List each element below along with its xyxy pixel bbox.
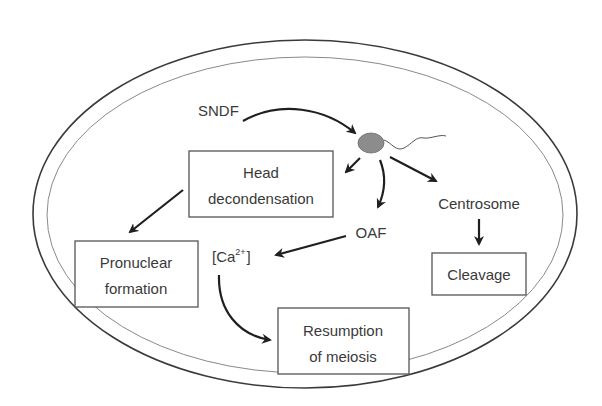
resumption-of-meiosis-box: Resumption of meiosis: [278, 308, 409, 374]
oaf-label: OAF: [356, 224, 387, 241]
resumption-line2: of meiosis: [309, 348, 377, 365]
head-decondensation-line1: Head: [243, 164, 279, 181]
head-decondensation-line2: decondensation: [208, 190, 314, 207]
fertilization-diagram: SNDF Head decondensation Pronuclear form…: [0, 0, 602, 406]
cleavage-box: Cleavage: [432, 253, 526, 295]
pronuclear-formation-box: Pronuclear formation: [75, 241, 198, 307]
calcium-label: [Ca2+]: [212, 247, 251, 265]
arrow-sperm-to-oaf: [378, 160, 384, 207]
arrow-sperm-to-head-decondensation: [346, 158, 360, 172]
centrosome-label: Centrosome: [438, 195, 520, 212]
arrow-head-to-pronuclear: [130, 190, 183, 232]
arrow-oaf-to-calcium: [276, 236, 346, 255]
arrow-calcium-to-resumption: [219, 275, 270, 340]
pronuclear-formation-line1: Pronuclear: [100, 254, 173, 271]
resumption-line1: Resumption: [303, 322, 383, 339]
arrow-sperm-to-centrosome: [390, 157, 436, 181]
head-decondensation-box: Head decondensation: [189, 151, 333, 217]
cleavage-label: Cleavage: [447, 266, 510, 283]
pronuclear-formation-line2: formation: [105, 280, 168, 297]
sndf-label: SNDF: [198, 102, 239, 119]
sperm-icon: [358, 133, 446, 153]
arrow-sndf-to-sperm: [243, 109, 355, 133]
